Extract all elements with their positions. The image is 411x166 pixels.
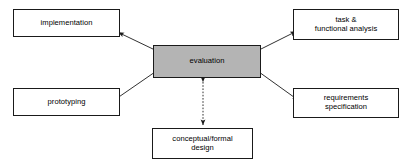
node-implementation-label: implementation: [38, 19, 96, 28]
node-prototyping[interactable]: prototyping: [13, 88, 120, 116]
node-requirements-specification[interactable]: requirements specification: [293, 88, 399, 118]
node-task-functional-analysis[interactable]: task & functional analysis: [293, 9, 399, 40]
node-implementation[interactable]: implementation: [13, 9, 120, 37]
node-requirements-specification-label: requirements specification: [321, 94, 372, 112]
node-conceptual-formal-design[interactable]: conceptual/formal design: [152, 128, 253, 159]
diagram-canvas: implementation task & functional analysi…: [0, 0, 411, 166]
node-evaluation-label: evaluation: [187, 57, 228, 66]
node-prototyping-label: prototyping: [45, 98, 89, 107]
edge-evaluation-task-functional-analysis: [259, 32, 296, 51]
node-task-functional-analysis-label: task & functional analysis: [312, 16, 380, 34]
node-evaluation[interactable]: evaluation: [153, 45, 261, 78]
edge-evaluation-implementation: [119, 33, 156, 51]
node-conceptual-formal-design-label: conceptual/formal design: [169, 135, 235, 153]
